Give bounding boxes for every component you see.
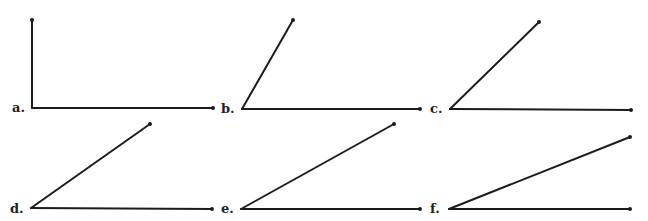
angle-f: f.	[430, 135, 632, 216]
endpoint-dot	[30, 18, 34, 22]
angle-ray	[242, 20, 293, 109]
endpoint-dot	[291, 18, 295, 22]
endpoint-dot	[628, 135, 632, 139]
base-ray	[450, 109, 631, 110]
angle-label: f.	[430, 201, 440, 216]
endpoint-dot	[628, 207, 632, 211]
angle-ray	[31, 124, 150, 208]
angle-label: e.	[221, 201, 234, 216]
angle-c: c.	[430, 20, 633, 116]
angle-label: b.	[221, 101, 235, 116]
angle-label: a.	[12, 100, 25, 115]
angle-ray	[241, 124, 394, 209]
base-ray	[31, 208, 212, 209]
endpoint-dot	[418, 207, 422, 211]
endpoint-dot	[210, 207, 214, 211]
endpoint-dot	[537, 20, 541, 24]
angles-diagram: a. b. c. d. e. f.	[0, 0, 648, 221]
angle-a: a.	[12, 18, 215, 115]
endpoint-dot	[211, 106, 215, 110]
angle-ray	[449, 137, 630, 209]
endpoint-dot	[629, 108, 633, 112]
angle-b: b.	[221, 18, 422, 116]
angle-label: c.	[430, 101, 442, 116]
angle-d: d.	[10, 122, 214, 216]
endpoint-dot	[148, 122, 152, 126]
angle-label: d.	[10, 201, 24, 216]
endpoint-dot	[418, 107, 422, 111]
angle-e: e.	[221, 122, 422, 216]
angle-ray	[450, 22, 539, 109]
endpoint-dot	[392, 122, 396, 126]
